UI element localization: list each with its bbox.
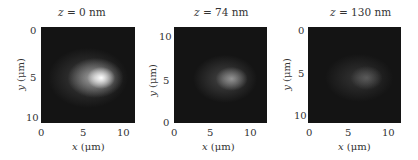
- x-tick: 0: [171, 128, 177, 138]
- y-axis-label: y (μm): [15, 58, 26, 91]
- y-tick: 5: [298, 69, 304, 79]
- y-tick: 5: [30, 73, 36, 83]
- x-tick: 10: [382, 128, 395, 138]
- y-axis-label: y (μm): [281, 58, 292, 91]
- y-tick: 10: [294, 111, 307, 121]
- title-text: = 130 nm: [336, 6, 392, 18]
- xlabel-unit: (μm): [208, 141, 235, 152]
- y-tick: 0: [163, 118, 169, 128]
- ylabel-var: y: [281, 85, 292, 91]
- x-tick: 10: [244, 128, 257, 138]
- y-tick: 10: [159, 32, 172, 42]
- intensity-image: [308, 27, 401, 123]
- intensity-image: [174, 27, 267, 123]
- y-tick: 10: [26, 113, 39, 123]
- ylabel-var: y: [147, 91, 158, 97]
- x-tick: 0: [38, 128, 44, 138]
- title-text: = 0 nm: [64, 6, 106, 18]
- y-tick: 0: [298, 26, 304, 36]
- x-tick: 5: [80, 128, 86, 138]
- panel-title: z = 0 nm: [58, 6, 106, 18]
- y-axis-label: y (μm): [147, 64, 158, 97]
- panel-z130: z = 130 nm 0 5 10 0 5 10 x (μm) y (μm): [278, 0, 418, 160]
- bright-spot: [308, 27, 401, 123]
- x-axis-label: x (μm): [338, 141, 371, 152]
- panel-title: z = 74 nm: [194, 6, 248, 18]
- ylabel-unit: (μm): [147, 64, 158, 91]
- intensity-image: [41, 27, 135, 123]
- ylabel-unit: (μm): [15, 58, 26, 85]
- bright-spot: [174, 27, 267, 123]
- x-tick: 10: [117, 128, 130, 138]
- ylabel-unit: (μm): [281, 58, 292, 85]
- x-tick: 0: [306, 128, 312, 138]
- title-text: = 74 nm: [200, 6, 249, 18]
- x-tick: 5: [207, 128, 213, 138]
- panel-z0: z = 0 nm 0 5 10 0 5 10 x (μm) y (μm): [0, 0, 140, 160]
- panel-z74: z = 74 nm 10 5 0 0 5 10 x (μm) y (μm): [134, 0, 274, 160]
- ylabel-var: y: [15, 85, 26, 91]
- y-tick: 5: [163, 76, 169, 86]
- y-tick: 0: [30, 26, 36, 36]
- xlabel-unit: (μm): [78, 141, 105, 152]
- x-tick: 5: [345, 128, 351, 138]
- x-axis-label: x (μm): [72, 141, 105, 152]
- bright-spot: [41, 27, 135, 123]
- x-axis-label: x (μm): [202, 141, 235, 152]
- xlabel-unit: (μm): [344, 141, 371, 152]
- panel-title: z = 130 nm: [330, 6, 391, 18]
